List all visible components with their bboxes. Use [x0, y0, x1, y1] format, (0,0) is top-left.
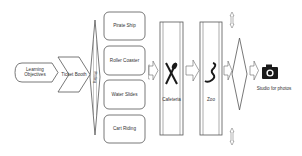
start-label-line2: Objectives	[15, 72, 55, 77]
ticket-booth-label: Ticket Booth	[58, 72, 90, 77]
arrow-to-decision	[224, 61, 232, 80]
start-node-label: Learning Objectives	[15, 67, 55, 78]
arrow-to-zoo	[186, 60, 199, 81]
studio-label: Studio for photos	[254, 86, 294, 91]
camera-icon	[262, 65, 278, 80]
rides-label: Riding	[93, 68, 98, 88]
arrow-to-studio	[250, 61, 259, 80]
ride-label-roller-coaster: Roller Coaster	[104, 58, 145, 63]
ride-label-pirate-ship: Pirate Ship	[104, 23, 145, 28]
zoo-panel	[200, 22, 222, 135]
up-down-arrow-top	[230, 12, 234, 28]
zoo-label: Zoo	[200, 97, 222, 102]
ride-label-cart-riding: Cart Riding	[104, 126, 145, 131]
arrow-to-cafeteria	[149, 61, 158, 80]
ride-label-water-slides: Water Slides	[104, 92, 145, 97]
flow-diagram	[0, 0, 302, 156]
cafeteria-panel	[160, 22, 183, 135]
up-down-arrow-bottom	[230, 128, 234, 145]
cafeteria-label: Cafeteria	[160, 97, 183, 102]
decision-diamond	[232, 38, 247, 110]
